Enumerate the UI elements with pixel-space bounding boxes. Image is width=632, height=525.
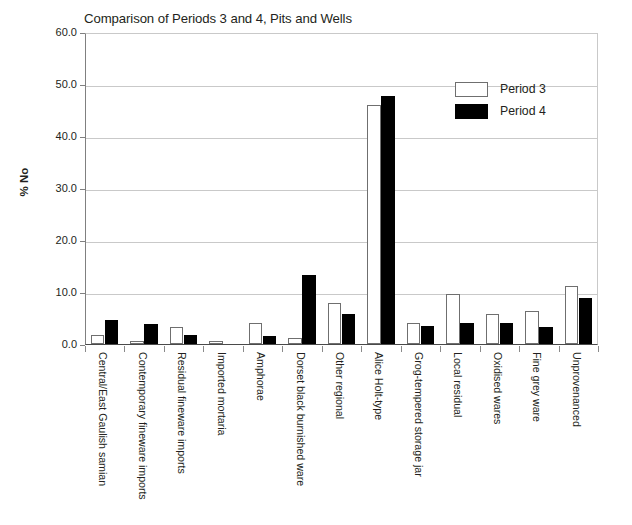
x-axis-label: Dorset black burnished ware [295,352,307,486]
x-axis-label: Grog-tempered storage jar [413,352,425,477]
x-axis-label: Fine grey ware [531,352,543,422]
bar-period-4 [184,335,198,344]
bar-period-4 [421,326,435,344]
bar-period-4 [539,327,553,344]
x-axis-label: Local residual [452,352,464,417]
y-axis-tick-label: 50.0 [33,78,77,90]
x-axis-tick-mark [559,346,560,352]
bar-period-4 [460,323,474,344]
x-axis-tick-mark [164,346,165,352]
x-axis-tick-mark [85,346,86,352]
y-axis-title: % No [18,152,30,212]
chart-title: Comparison of Periods 3 and 4, Pits and … [84,11,352,26]
x-axis-tick-mark [519,346,520,352]
bar-period-3 [446,294,460,344]
bar-period-4 [302,275,316,344]
x-axis-label: Unprovenanced [571,352,583,427]
bar-period-3 [525,311,539,344]
bar-period-4 [144,324,158,344]
bar-period-3 [91,335,105,344]
y-axis-tick-label: 20.0 [33,234,77,246]
bar-period-3 [407,323,421,344]
bar-period-4 [579,298,593,344]
bar-group [86,34,125,344]
bar-chart: Comparison of Periods 3 and 4, Pits and … [0,0,632,525]
x-axis-tick-mark [401,346,402,352]
bar-group [165,34,204,344]
x-axis-tick-mark [203,346,204,352]
bar-group [125,34,164,344]
y-axis-tick-label: 0.0 [33,338,77,350]
bar-period-3 [249,323,263,344]
bar-period-3 [209,341,223,344]
x-axis-tick-mark [322,346,323,352]
x-axis-tick-mark [124,346,125,352]
bar-period-3 [328,303,342,344]
chart-legend: Period 3 Period 4 [455,78,585,122]
x-axis-label: Oxidised wares [492,352,504,424]
legend-label-period-3: Period 3 [500,82,546,96]
bar-group [244,34,283,344]
x-axis-label: Alice Holt-type [373,352,385,420]
bar-group [323,34,362,344]
x-axis-tick-mark [243,346,244,352]
legend-item-period-4: Period 4 [455,100,585,122]
bar-period-3 [130,341,144,344]
bar-group [402,34,441,344]
x-axis-label: Contemporary fineware imports [137,352,149,500]
x-axis-label: Amphorae [255,352,267,401]
bar-period-3 [288,338,302,344]
bar-period-4 [105,320,119,344]
x-axis-label: Residual fineware imports [176,352,188,474]
bar-period-3 [170,327,184,344]
bar-group [283,34,322,344]
x-axis-label: Other regional [334,352,346,419]
x-axis-tick-mark [480,346,481,352]
bar-period-3 [565,286,579,344]
legend-swatch-period-3 [455,82,488,97]
bar-group [362,34,401,344]
legend-swatch-period-4 [455,104,488,119]
bar-period-4 [500,323,514,344]
bar-group [204,34,243,344]
bar-period-4 [381,96,395,344]
y-axis-tick-label: 40.0 [33,130,77,142]
bar-period-3 [486,314,500,344]
x-axis-tick-mark [598,346,599,352]
bar-period-3 [367,105,381,344]
x-axis-label: Imported mortaria [216,352,228,436]
x-axis-tick-mark [361,346,362,352]
x-axis-tick-mark [282,346,283,352]
x-axis-tick-mark [440,346,441,352]
y-axis-tick-label: 10.0 [33,286,77,298]
y-axis-tick-label: 60.0 [33,26,77,38]
bar-period-4 [342,314,356,344]
y-axis-tick-label: 30.0 [33,182,77,194]
legend-item-period-3: Period 3 [455,78,585,100]
legend-label-period-4: Period 4 [500,104,546,118]
x-axis-label: Central/East Gaulish samian [97,352,109,486]
bar-period-4 [263,336,277,344]
